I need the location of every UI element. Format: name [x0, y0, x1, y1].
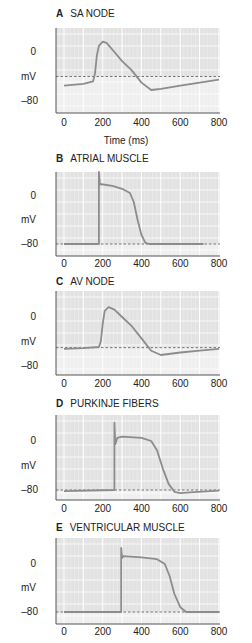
x-tick-label: 800: [204, 117, 234, 128]
x-tick-label: 800: [204, 626, 234, 637]
x-tick-label: 200: [88, 503, 118, 514]
y-axis-title: mV: [0, 71, 36, 82]
y-tick-label: 0: [0, 46, 36, 57]
x-tick-label: 600: [165, 117, 195, 128]
x-tick-label: 200: [88, 378, 118, 389]
x-tick-label: 800: [204, 503, 234, 514]
x-tick-label: 400: [127, 626, 157, 637]
x-tick-label: 600: [165, 503, 195, 514]
x-tick-label: 800: [204, 378, 234, 389]
y-tick-label: –80: [0, 606, 38, 617]
y-tick-label: 0: [0, 190, 36, 201]
x-tick-label: 400: [127, 503, 157, 514]
x-tick-label: 400: [127, 258, 157, 269]
y-tick-label: 0: [0, 311, 36, 322]
x-tick-label: 0: [49, 626, 79, 637]
x-tick-label: 0: [49, 378, 79, 389]
y-axis-title: mV: [0, 336, 36, 347]
x-tick-label: 200: [88, 258, 118, 269]
x-tick-label: 200: [88, 626, 118, 637]
y-tick-label: 0: [0, 558, 36, 569]
y-tick-label: –80: [0, 238, 38, 249]
x-tick-label: 400: [127, 117, 157, 128]
y-tick-label: –80: [0, 95, 38, 106]
x-tick-label: 200: [88, 117, 118, 128]
x-tick-label: 600: [165, 626, 195, 637]
y-axis-title: mV: [0, 582, 36, 593]
y-tick-label: 0: [0, 435, 36, 446]
x-tick-label: 600: [165, 258, 195, 269]
x-tick-label: 0: [49, 258, 79, 269]
x-tick-label: 0: [49, 117, 79, 128]
x-tick-label: 400: [127, 378, 157, 389]
x-tick-label: 600: [165, 378, 195, 389]
y-tick-label: –80: [0, 484, 38, 495]
y-tick-label: –80: [0, 360, 38, 371]
y-axis-title: mV: [0, 460, 36, 471]
x-tick-label: 800: [204, 258, 234, 269]
y-axis-title: mV: [0, 214, 36, 225]
x-tick-label: 0: [49, 503, 79, 514]
